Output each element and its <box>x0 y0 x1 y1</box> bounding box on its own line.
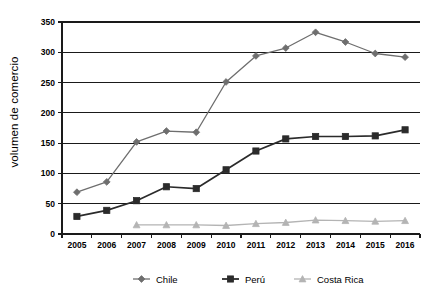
y-tick-label-250: 250 <box>41 78 55 88</box>
series-chile-marker-10 <box>372 50 379 57</box>
legend-item-chile[interactable]: Chile <box>133 274 178 285</box>
x-tick-label-2005: 2005 <box>67 240 86 250</box>
series-perú-marker-2 <box>133 198 139 204</box>
series-chile <box>74 29 409 196</box>
y-tick-label-50: 50 <box>46 199 56 209</box>
y-tick-label-0: 0 <box>50 229 55 239</box>
legend-label-perú: Perú <box>245 274 265 285</box>
series-chile-marker-4 <box>193 129 200 136</box>
series-costa-rica <box>133 217 408 229</box>
series-perú-marker-7 <box>283 136 289 142</box>
y-tick-label-350: 350 <box>41 17 55 27</box>
x-tick-label-2008: 2008 <box>157 240 176 250</box>
series-perú-marker-11 <box>402 127 408 133</box>
series-perú-marker-0 <box>74 213 80 219</box>
legend-perú-marker-swatch <box>227 276 233 282</box>
y-tick-label-150: 150 <box>41 138 55 148</box>
legend-item-perú[interactable]: Perú <box>222 274 265 285</box>
series-perú-marker-9 <box>342 133 348 139</box>
x-tick-label-2014: 2014 <box>336 240 355 250</box>
series-perú-marker-3 <box>163 184 169 190</box>
series-chile-marker-9 <box>342 39 349 46</box>
line-chart: volumen de comercio 05010015020025030035… <box>0 0 430 294</box>
series-perú-marker-6 <box>253 148 259 154</box>
series-chile-marker-8 <box>312 29 319 36</box>
y-tick-label-100: 100 <box>41 168 55 178</box>
series-perú-marker-5 <box>223 167 229 173</box>
x-tick-label-2013: 2013 <box>306 240 325 250</box>
x-tick-label-2011: 2011 <box>247 240 266 250</box>
series-perú-marker-1 <box>104 207 110 213</box>
series-chile-marker-0 <box>74 189 81 196</box>
y-tick-label-200: 200 <box>41 108 55 118</box>
y-tick-label-300: 300 <box>41 47 55 57</box>
x-tick-label-2012: 2012 <box>276 240 295 250</box>
legend-label-costa-rica: Costa Rica <box>317 274 364 285</box>
x-tick-label-2007: 2007 <box>127 240 146 250</box>
x-tick-label-2009: 2009 <box>187 240 206 250</box>
series-line-chile <box>77 32 405 192</box>
series-chile-marker-7 <box>282 45 289 52</box>
series-chile-marker-11 <box>402 54 409 61</box>
chart-canvas: 0501001502002503003502005200620072008200… <box>0 0 430 294</box>
legend-item-costa-rica[interactable]: Costa Rica <box>294 274 364 285</box>
series-perú-marker-4 <box>193 185 199 191</box>
series-perú-marker-10 <box>372 133 378 139</box>
series-line-costa-rica <box>137 220 406 225</box>
series-perú-marker-8 <box>312 133 318 139</box>
x-tick-label-2010: 2010 <box>217 240 236 250</box>
x-tick-label-2015: 2015 <box>366 240 385 250</box>
x-tick-label-2016: 2016 <box>396 240 415 250</box>
x-tick-label-2006: 2006 <box>97 240 116 250</box>
series-chile-marker-3 <box>163 128 170 135</box>
legend-label-chile: Chile <box>156 274 178 285</box>
legend-chile-marker-swatch <box>138 276 145 283</box>
